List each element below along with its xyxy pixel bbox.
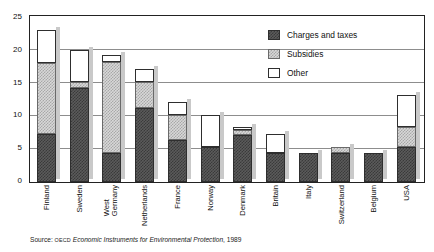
y-axis-tick-5: 5	[2, 144, 22, 152]
bar-shadow	[383, 150, 387, 179]
y-axis-tick-10: 10	[2, 111, 22, 119]
legend-item-charges[interactable]: Charges and taxes	[268, 28, 418, 42]
source-publisher: OECD	[55, 237, 71, 243]
bar-shadow	[416, 92, 420, 179]
bar-segment-charges	[37, 134, 56, 182]
x-axis-label-line: Belgium	[370, 185, 378, 212]
bar-segment-charges	[70, 88, 89, 182]
bar-segment-subsidies	[397, 127, 416, 147]
bar-segment-charges	[201, 147, 220, 182]
source-year: 1989	[227, 236, 242, 243]
x-axis-label-switzerland: Switzerland	[338, 185, 346, 224]
x-axis-label-netherlands: Netherlands	[141, 185, 149, 226]
x-axis-label-denmark: Denmark	[239, 185, 247, 216]
bar-shadow	[285, 131, 289, 179]
bar-segment-subsidies	[102, 62, 121, 153]
bar-segment-charges	[168, 140, 187, 182]
bar-segment-subsidies	[37, 63, 56, 134]
bar	[201, 17, 220, 182]
bar-group-norway[interactable]	[201, 17, 220, 182]
x-axis-label-west-germany: WestGermany	[103, 185, 120, 216]
x-axis-label-norway: Norway	[207, 185, 215, 211]
bar-segment-charges	[266, 153, 285, 182]
x-axis-label-line: France	[174, 185, 182, 209]
source-note: Source: OECD Economic Instruments for En…	[30, 236, 241, 244]
bar-shadow	[154, 66, 158, 179]
y-axis-tick-20: 20	[2, 46, 22, 54]
bar-shadow	[220, 112, 224, 179]
bar	[37, 17, 56, 182]
bar-segment-other	[233, 127, 252, 130]
bar-segment-subsidies	[135, 82, 154, 108]
bar-shadow	[252, 124, 256, 179]
legend-swatch-subsidies	[268, 49, 280, 59]
y-axis-tick-15: 15	[2, 79, 22, 87]
bar-segment-subsidies	[70, 82, 89, 88]
x-axis-label-line: Italy	[305, 185, 313, 199]
legend-label-other: Other	[287, 68, 308, 78]
bar-group-denmark[interactable]	[233, 17, 252, 182]
bar-segment-other	[135, 69, 154, 82]
source-work-title: Economic Instruments for Environmental P…	[73, 236, 223, 243]
x-axis-label-line: Switzerland	[338, 185, 346, 224]
bar-shadow	[121, 52, 125, 179]
x-axis-label-britain: Britain	[272, 185, 280, 207]
bar-segment-other	[102, 55, 121, 62]
legend-label-subsidies: Subsidies	[287, 49, 323, 59]
legend-label-charges: Charges and taxes	[287, 30, 357, 40]
x-axis-label-belgium: Belgium	[370, 185, 378, 212]
x-axis-label-finland: Finland	[43, 185, 51, 210]
bar	[102, 17, 121, 182]
bar-segment-subsidies	[233, 130, 252, 135]
bar-segment-other	[266, 134, 285, 153]
x-axis-label-usa: USA	[403, 185, 411, 201]
x-axis-label-line: USA	[403, 185, 411, 201]
bar-shadow	[187, 99, 191, 179]
bar-segment-other	[397, 95, 416, 127]
legend: Charges and taxesSubsidiesOther	[268, 28, 418, 85]
x-axis-label-line: Germany	[112, 185, 120, 216]
bar-segment-charges	[233, 135, 252, 182]
x-axis-label-line: Finland	[43, 185, 51, 210]
x-axis-label-sweden: Sweden	[76, 185, 84, 212]
y-axis-tick-0: 0	[2, 177, 22, 185]
bar-shadow	[89, 47, 93, 179]
bar-segment-other	[201, 115, 220, 147]
x-axis-label-line: Denmark	[239, 185, 247, 216]
bar-group-netherlands[interactable]	[135, 17, 154, 182]
x-axis-label-france: France	[174, 185, 182, 209]
bar	[168, 17, 187, 182]
bar-segment-charges	[299, 153, 318, 182]
legend-item-subsidies[interactable]: Subsidies	[268, 47, 418, 61]
bar-segment-charges	[331, 153, 350, 182]
x-axis-label-line: Norway	[207, 185, 215, 211]
bar-segment-subsidies	[331, 147, 350, 153]
x-axis-label-italy: Italy	[305, 185, 313, 199]
bar-shadow	[350, 144, 354, 179]
bar-segment-charges	[364, 153, 383, 182]
bar-group-sweden[interactable]	[70, 17, 89, 182]
y-axis: 0510152025	[0, 0, 26, 252]
bar-segment-charges	[102, 153, 121, 182]
bar-group-finland[interactable]	[37, 17, 56, 182]
legend-swatch-charges	[268, 30, 280, 40]
x-axis-label-line: Netherlands	[141, 185, 149, 226]
bar-group-france[interactable]	[168, 17, 187, 182]
bar-group-west-germany[interactable]	[102, 17, 121, 182]
x-axis: FinlandSwedenWestGermanyNetherlandsFranc…	[29, 185, 425, 233]
bar	[70, 17, 89, 182]
bar-shadow	[56, 27, 60, 179]
legend-swatch-other	[268, 68, 280, 78]
bar-shadow	[318, 150, 322, 179]
bar	[135, 17, 154, 182]
legend-item-other[interactable]: Other	[268, 66, 418, 80]
bar-segment-charges	[135, 108, 154, 182]
bar	[233, 17, 252, 182]
bar-segment-charges	[397, 147, 416, 182]
bar-segment-other	[70, 50, 89, 82]
bar-segment-subsidies	[168, 115, 187, 141]
bar-segment-other	[37, 30, 56, 63]
bar-segment-other	[168, 102, 187, 115]
x-axis-label-line: Britain	[272, 185, 280, 207]
source-comma: ,	[223, 236, 225, 243]
